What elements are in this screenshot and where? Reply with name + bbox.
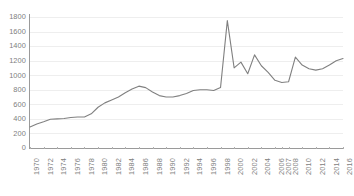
x-axis-tick-mark	[329, 147, 330, 149]
x-axis-tick-label: 1970	[33, 158, 40, 175]
x-axis-tick-label: 2000	[237, 158, 244, 175]
x-axis-tick-mark	[302, 147, 303, 149]
x-axis-tick-label: 2008	[292, 158, 299, 175]
series-polyline	[30, 21, 343, 127]
x-axis-tick-mark	[221, 147, 222, 149]
x-axis-tick-label: 1986	[142, 158, 149, 175]
x-axis-tick-mark	[343, 147, 344, 149]
x-axis-tick-mark	[207, 147, 208, 149]
y-axis-tick-label: 1400	[2, 42, 26, 49]
data-series-line	[30, 17, 343, 148]
x-axis-tick-label: 2014	[333, 158, 340, 175]
y-axis-tick-label: 1800	[2, 13, 26, 20]
x-axis-tick-label: 1980	[101, 158, 108, 175]
x-axis-tick-mark	[30, 147, 31, 149]
x-axis-tick-mark	[125, 147, 126, 149]
x-axis-tick-mark	[275, 147, 276, 149]
x-axis-tick-label: 1976	[74, 158, 81, 175]
y-axis-tick-label: 1600	[2, 28, 26, 35]
y-axis-tick-label: 0	[2, 144, 26, 151]
x-axis-tick-label: 1998	[224, 158, 231, 175]
x-axis-tick-label: 1982	[115, 158, 122, 175]
y-axis-tick-label: 1000	[2, 72, 26, 79]
x-axis-tick-label: 1994	[196, 158, 203, 175]
x-axis-tick-label: 1990	[169, 158, 176, 175]
x-axis-tick-mark	[44, 147, 45, 149]
x-axis-tick-label: 2002	[251, 158, 258, 175]
y-axis-tick-label: 1200	[2, 57, 26, 64]
x-axis-tick-mark	[261, 147, 262, 149]
x-axis-tick-label: 2004	[264, 158, 271, 175]
x-axis-tick-mark	[180, 147, 181, 149]
y-axis-tick-label: 200	[2, 130, 26, 137]
x-axis-tick-label: 1992	[183, 158, 190, 175]
x-axis-tick-mark	[57, 147, 58, 149]
x-axis-tick-mark	[193, 147, 194, 149]
x-axis-tick-mark	[282, 147, 283, 149]
x-axis-tick-label: 1996	[210, 158, 217, 175]
x-axis-tick-labels: 1970197219741976197819801982198419861988…	[30, 149, 343, 196]
x-axis-tick-label: 1974	[60, 158, 67, 175]
x-axis-tick-mark	[166, 147, 167, 149]
x-axis-tick-mark	[139, 147, 140, 149]
x-axis-tick-mark	[112, 147, 113, 149]
x-axis-tick-mark	[316, 147, 317, 149]
plot-area	[30, 17, 343, 148]
x-axis-tick-mark	[98, 147, 99, 149]
x-axis-tick-mark	[248, 147, 249, 149]
x-axis-tick-label: 1984	[128, 158, 135, 175]
x-axis-tick-mark	[71, 147, 72, 149]
x-axis-tick-mark	[234, 147, 235, 149]
data-line-layer	[30, 17, 343, 148]
x-axis-tick-label: 2010	[305, 158, 312, 175]
y-axis-tick-label: 600	[2, 101, 26, 108]
y-axis-tick-labels: 180016001400120010008006004002000	[2, 0, 26, 196]
x-axis-tick-label: 2012	[319, 158, 326, 175]
x-axis-tick-label: 1988	[156, 158, 163, 175]
x-axis-tick-mark	[84, 147, 85, 149]
x-axis-tick-mark	[289, 147, 290, 149]
x-axis-tick-label: 2016	[346, 158, 353, 175]
x-axis-tick-label: 1978	[88, 158, 95, 175]
y-axis-tick-label: 800	[2, 86, 26, 93]
x-axis-tick-label: 1972	[47, 158, 54, 175]
y-axis-tick-label: 400	[2, 115, 26, 122]
x-axis-tick-mark	[153, 147, 154, 149]
